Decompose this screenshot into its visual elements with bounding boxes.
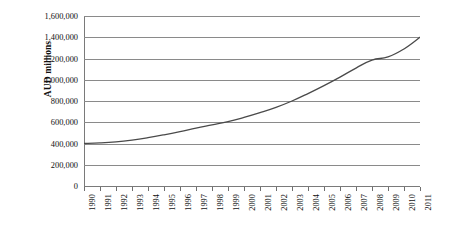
gridline-0 xyxy=(84,186,420,187)
x-tick-label-2008: 2008 xyxy=(376,194,385,236)
line-chart: AUD millions 0200,000400,000600,000800,0… xyxy=(0,0,452,247)
x-tick-label-1991: 1991 xyxy=(104,194,113,236)
x-tick-2003 xyxy=(292,187,293,191)
x-tick-label-1993: 1993 xyxy=(136,194,145,236)
x-tick-2004 xyxy=(308,187,309,191)
x-tick-1990 xyxy=(84,187,85,191)
x-tick-label-2006: 2006 xyxy=(344,194,353,236)
x-tick-1999 xyxy=(228,187,229,191)
x-tick-2011 xyxy=(420,187,421,191)
x-tick-2000 xyxy=(244,187,245,191)
y-tick-label-200000: 200,000 xyxy=(51,160,78,169)
x-tick-2008 xyxy=(372,187,373,191)
x-tick-label-2004: 2004 xyxy=(312,194,321,236)
x-tick-1997 xyxy=(196,187,197,191)
y-tick-label-400000: 400,000 xyxy=(51,139,78,148)
x-tick-1992 xyxy=(116,187,117,191)
x-tick-2001 xyxy=(260,187,261,191)
x-tick-label-1996: 1996 xyxy=(184,194,193,236)
x-tick-2005 xyxy=(324,187,325,191)
x-tick-label-2005: 2005 xyxy=(328,194,337,236)
x-tick-2007 xyxy=(356,187,357,191)
x-tick-label-1994: 1994 xyxy=(152,194,161,236)
y-tick-label-0: 0 xyxy=(74,182,78,191)
x-tick-1996 xyxy=(180,187,181,191)
x-tick-label-1998: 1998 xyxy=(216,194,225,236)
x-tick-1993 xyxy=(132,187,133,191)
x-tick-label-1992: 1992 xyxy=(120,194,129,236)
x-tick-1995 xyxy=(164,187,165,191)
x-tick-1994 xyxy=(148,187,149,191)
y-tick-label-1000000: 1,000,000 xyxy=(45,75,79,84)
x-tick-label-1999: 1999 xyxy=(232,194,241,236)
y-tick-label-600000: 600,000 xyxy=(51,118,78,127)
x-tick-label-1997: 1997 xyxy=(200,194,209,236)
x-tick-label-2002: 2002 xyxy=(280,194,289,236)
x-tick-label-2000: 2000 xyxy=(248,194,257,236)
x-tick-2006 xyxy=(340,187,341,191)
x-tick-2010 xyxy=(404,187,405,191)
x-tick-2009 xyxy=(388,187,389,191)
x-tick-label-2009: 2009 xyxy=(392,194,401,236)
x-tick-2002 xyxy=(276,187,277,191)
x-tick-1991 xyxy=(100,187,101,191)
x-tick-label-2011: 2011 xyxy=(424,194,433,236)
x-axis-tick-labels: 1990199119921993199419951996199719981999… xyxy=(0,0,452,60)
x-tick-label-2007: 2007 xyxy=(360,194,369,236)
x-tick-label-1990: 1990 xyxy=(88,194,97,236)
x-tick-label-2003: 2003 xyxy=(296,194,305,236)
x-tick-label-1995: 1995 xyxy=(168,194,177,236)
x-tick-label-2001: 2001 xyxy=(264,194,273,236)
x-tick-label-2010: 2010 xyxy=(408,194,417,236)
y-tick-label-800000: 800,000 xyxy=(51,97,78,106)
x-tick-1998 xyxy=(212,187,213,191)
